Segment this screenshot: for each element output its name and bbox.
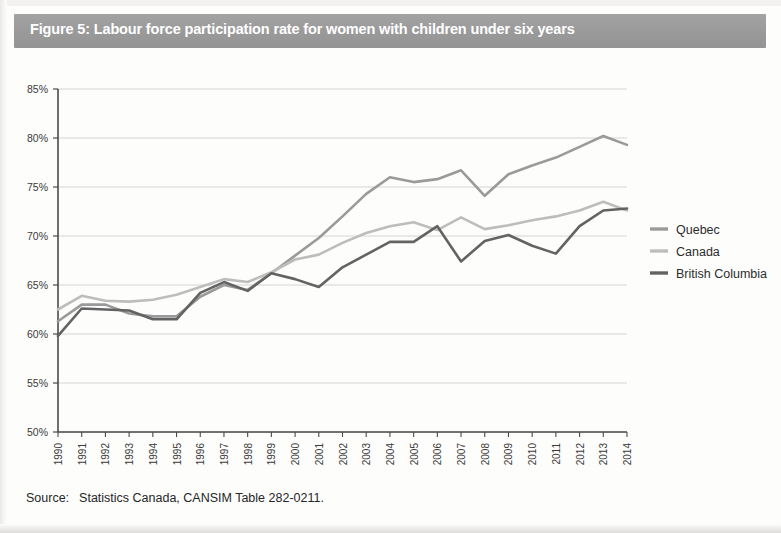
y-axis-tick-label: 85% (27, 83, 48, 95)
series-line-british-columbia (58, 209, 627, 336)
gridlines (58, 89, 627, 432)
legend-label-quebec: Quebec (676, 223, 720, 237)
x-axis-tick-label: 2012 (575, 443, 586, 466)
x-axis-tick-label: 1994 (148, 443, 159, 466)
x-axis-tick-label: 2004 (385, 443, 396, 466)
y-axis-tick-label: 55% (27, 377, 48, 389)
x-axis-labels: 1990199119921993199419951996199719981999… (53, 443, 633, 466)
x-axis-tick-label: 2000 (290, 443, 301, 466)
x-axis-tick-label: 2007 (456, 443, 467, 466)
x-axis-tick-label: 2008 (480, 443, 491, 466)
series-line-quebec (58, 136, 627, 321)
source-text: Statistics Canada, CANSIM Table 282-0211… (79, 491, 324, 505)
x-axis-tick-label: 2005 (409, 443, 420, 466)
y-axis-tick-label: 70% (27, 230, 48, 242)
x-axis-tick-label: 2006 (432, 443, 443, 466)
x-axis-tick-label: 2013 (598, 443, 609, 466)
y-axis-tick-label: 65% (27, 279, 48, 291)
x-axis-tick-label: 1997 (219, 443, 230, 466)
legend-label-british-columbia: British Columbia (676, 267, 767, 281)
chart-legend: QuebecCanadaBritish Columbia (650, 223, 767, 281)
y-axis-tick-label: 50% (27, 426, 48, 438)
x-axis-tick-label: 1996 (195, 443, 206, 466)
x-axis-tick-label: 1991 (77, 443, 88, 466)
x-axis-tick-label: 2002 (338, 443, 349, 466)
x-axis-tick-label: 1992 (100, 443, 111, 466)
x-axis-tick-label: 2003 (361, 443, 372, 466)
x-axis-tick-label: 1990 (53, 443, 64, 466)
x-axis-tick-label: 2009 (503, 443, 514, 466)
x-axis-tick-label: 1993 (124, 443, 135, 466)
x-axis-tick-label: 2001 (314, 443, 325, 466)
line-chart: 85%80%75%70%65%60%55%50% 199019911992199… (0, 0, 781, 533)
figure-container: Figure 5: Labour force participation rat… (0, 0, 781, 533)
legend-label-canada: Canada (676, 245, 720, 259)
source-label: Source: (26, 491, 69, 505)
x-axis-tick-label: 1995 (172, 443, 183, 466)
x-axis-tick-label: 1999 (266, 443, 277, 466)
y-axis-tick-label: 75% (27, 181, 48, 193)
x-axis-tick-label: 2014 (622, 443, 633, 466)
source-note: Source:Statistics Canada, CANSIM Table 2… (26, 491, 324, 505)
x-axis-tick-label: 2011 (551, 443, 562, 465)
y-axis-tick-label: 60% (27, 328, 48, 340)
y-axis-tick-label: 80% (27, 132, 48, 144)
x-axis-tick-label: 2010 (527, 443, 538, 466)
x-axis-ticks (58, 432, 627, 437)
y-axis-labels: 85%80%75%70%65%60%55%50% (27, 83, 48, 438)
chart-plot-area: 85%80%75%70%65%60%55%50% 199019911992199… (0, 0, 781, 533)
x-axis-tick-label: 1998 (243, 443, 254, 466)
